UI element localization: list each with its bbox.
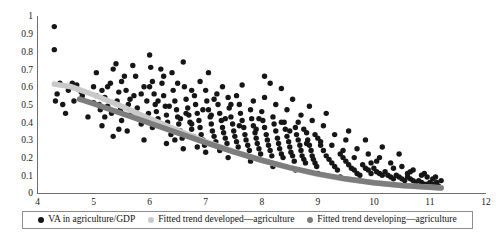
x-tick-label: 4	[35, 197, 40, 207]
scatter-point	[343, 137, 348, 142]
scatter-point	[225, 155, 230, 160]
y-tick-label: 0.1	[21, 171, 33, 181]
scatter-point	[324, 111, 329, 116]
scatter-point	[295, 137, 300, 142]
scatter-point	[239, 82, 244, 87]
scatter-point	[346, 128, 351, 133]
y-tick-label: 0	[28, 188, 33, 198]
scatter-point	[99, 88, 104, 93]
scatter-point	[366, 151, 371, 156]
scatter-point	[295, 120, 300, 125]
scatter-point	[231, 128, 236, 133]
scatter-point	[253, 127, 258, 132]
scatter-point	[209, 112, 214, 117]
scatter-point	[141, 84, 146, 89]
scatter-point	[196, 118, 201, 123]
scatter-series-va-in-agriculture-gdp	[52, 24, 444, 189]
scatter-point	[119, 79, 124, 84]
scatter-point	[329, 143, 334, 148]
scatter-point	[434, 180, 439, 185]
scatter-point	[230, 121, 235, 126]
scatter-point	[221, 130, 226, 135]
scatter-point	[405, 171, 410, 176]
y-axis-tick-labels: 00.10.20.30.40.50.60.70.80.91	[21, 11, 33, 198]
scatter-point	[183, 96, 188, 101]
scatter-point	[264, 132, 269, 137]
scatter-point	[220, 125, 225, 130]
scatter-point	[223, 135, 228, 140]
scatter-point	[161, 73, 166, 78]
scatter-point	[99, 123, 104, 128]
scatter-point	[228, 102, 233, 107]
scatter-point	[175, 81, 180, 86]
scatter-point	[363, 137, 368, 142]
scatter-point	[119, 118, 124, 123]
scatter-point	[60, 102, 65, 107]
scatter-point	[210, 128, 215, 133]
scatter-point	[286, 139, 291, 144]
scatter-point	[53, 98, 58, 103]
y-tick-label: 0.6	[21, 82, 33, 92]
scatter-point	[236, 144, 241, 149]
legend-dot-icon	[148, 217, 154, 223]
scatter-point	[183, 111, 188, 116]
scatter-point	[206, 70, 211, 75]
scatter-point	[214, 91, 219, 96]
y-tick-label: 0.4	[21, 118, 33, 128]
scatter-point	[399, 164, 404, 169]
scatter-point	[63, 111, 68, 116]
scatter-point	[122, 73, 127, 78]
scatter-point	[133, 73, 138, 78]
scatter-point	[192, 93, 197, 98]
scatter-point	[380, 144, 385, 149]
scatter-point	[357, 173, 362, 178]
scatter-point	[54, 91, 59, 96]
scatter-point	[154, 109, 159, 114]
scatter-point	[195, 111, 200, 116]
scatter-point	[297, 143, 302, 148]
y-tick-label: 0.8	[21, 47, 33, 57]
scatter-point	[262, 125, 267, 130]
scatter-point	[298, 112, 303, 117]
scatter-point	[147, 52, 152, 57]
scatter-point	[193, 102, 198, 107]
scatter-point	[182, 84, 187, 89]
scatter-point	[419, 173, 424, 178]
x-tick-label: 5	[91, 197, 96, 207]
y-tick-label: 0.7	[21, 65, 33, 75]
scatter-point	[332, 132, 337, 137]
legend-item-fitted-trend-developed: Fitted trend developed—agriculture	[148, 215, 294, 225]
scatter-point	[396, 151, 401, 156]
chart-legend: VA in agriculture/GDP Fitted trend devel…	[22, 211, 473, 229]
scatter-point	[224, 141, 229, 146]
scatter-point	[204, 98, 209, 103]
scatter-point	[312, 132, 317, 137]
scatter-point	[102, 114, 107, 119]
scatter-point	[167, 104, 172, 109]
scatter-point	[161, 93, 166, 98]
scatter-point	[267, 81, 272, 86]
scatter-point	[262, 73, 267, 78]
scatter-point	[248, 107, 253, 112]
scatter-point	[292, 158, 297, 163]
scatter-point	[280, 155, 285, 160]
scatter-point	[265, 137, 270, 142]
scatter-point	[293, 125, 298, 130]
scatter-point	[105, 84, 110, 89]
scatter-point	[354, 146, 359, 151]
scatter-point	[273, 102, 278, 107]
scatter-point	[85, 114, 90, 119]
scatter-point	[266, 143, 271, 148]
scatter-point	[169, 70, 174, 75]
scatter-point	[130, 63, 135, 68]
scatter-point	[307, 104, 312, 109]
scatter-point	[127, 96, 132, 101]
y-tick-label: 0.2	[21, 153, 33, 163]
x-tick-label: 6	[147, 197, 152, 207]
legend-dot-icon	[307, 217, 313, 223]
scatter-point	[308, 148, 313, 153]
scatter-point	[304, 141, 309, 146]
scatter-point	[228, 114, 233, 119]
scatter-point	[91, 84, 96, 89]
scatter-point	[256, 146, 261, 151]
